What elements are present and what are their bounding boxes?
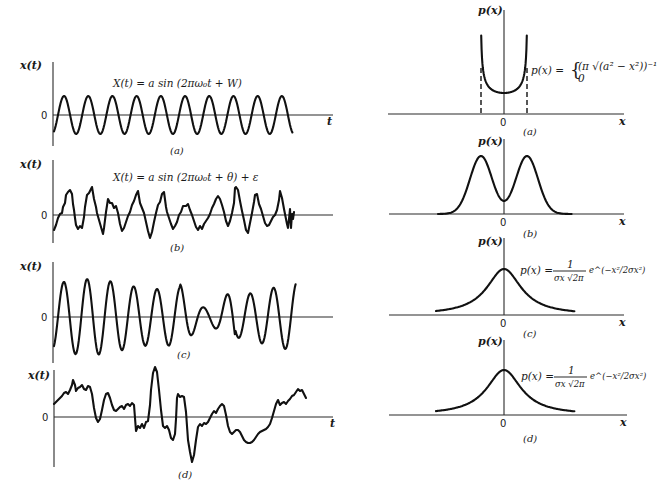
zero-label: 0	[500, 418, 506, 429]
zero-label: 0	[500, 217, 506, 228]
panel-caption: (b)	[523, 228, 537, 239]
equation-line-1: (π √(a² − x²))⁻¹	[578, 60, 657, 72]
equation-denominator: σx √2π	[555, 379, 585, 389]
panel-caption: (c)	[177, 349, 191, 360]
x-axis-label: x	[618, 316, 626, 329]
wide-band-random-curve	[54, 367, 306, 462]
y-axis-label: x(t)	[27, 369, 50, 382]
equation-lhs: p(x) =	[531, 64, 564, 76]
panel-caption: (a)	[523, 126, 537, 137]
equation: X(t) = a sin (2πω₀t + θ) + ε	[112, 171, 259, 183]
y-axis-label: x(t)	[19, 158, 42, 171]
equation-lhs: p(x) =	[521, 370, 554, 382]
zero-label: 0	[41, 312, 47, 323]
time-history-panel-b: x(t) 0 X(t) = a sin (2πω₀t + θ) + ε (b)	[19, 158, 333, 253]
equation-exponential: e^(−x²/2σx²)	[589, 265, 645, 275]
panel-caption: (b)	[170, 242, 184, 253]
equation-line-2: 0	[578, 72, 585, 84]
y-axis-label: x(t)	[19, 59, 42, 72]
zero-label: 0	[500, 318, 506, 329]
x-axis-label: t	[327, 115, 332, 128]
zero-label: 0	[41, 110, 47, 121]
y-axis-label: p(x)	[478, 235, 503, 248]
x-axis-label: x	[618, 115, 626, 128]
panel-caption: (a)	[170, 145, 184, 156]
equation-exponential: e^(−x²/2σx²)	[590, 371, 646, 381]
x-axis-label: t	[330, 417, 335, 430]
time-history-panel-c: x(t) 0 (c)	[19, 260, 333, 363]
density-panel-d: p(x) 0 x p(x) = 1 σx √2π e^(−x²/2σx²) (d…	[389, 335, 646, 444]
equation-lhs: p(x) =	[520, 264, 553, 276]
zero-label: 0	[41, 210, 47, 221]
panel-caption: (d)	[523, 433, 537, 444]
equation: X(t) = a sin (2πω₀t + W)	[112, 77, 242, 89]
y-axis-label: p(x)	[478, 4, 503, 17]
x-axis-label: x	[618, 215, 626, 228]
time-history-panel-d: x(t) 0 t (d)	[27, 367, 335, 480]
zero-label: 0	[42, 412, 48, 423]
panel-caption: (d)	[178, 469, 192, 480]
figure-canvas: x(t) 0 t X(t) = a sin (2πω₀t + W) (a) x(…	[0, 0, 658, 503]
equation-denominator: σx √2π	[554, 273, 584, 283]
density-panel-a: p(x) 0 x p(x) = { (π √(a² − x²))⁻¹ 0 (a)	[388, 4, 657, 137]
x-axis-label: x	[619, 416, 627, 429]
equation-numerator: 1	[568, 364, 575, 376]
panel-caption: (c)	[523, 328, 537, 339]
zero-label: 0	[500, 117, 506, 128]
density-panel-c: p(x) 0 x p(x) = 1 σx √2π e^(−x²/2σx²) (c…	[389, 235, 645, 339]
y-axis-label: x(t)	[19, 260, 42, 273]
y-axis-label: p(x)	[478, 135, 503, 148]
density-panel-b: p(x) 0 x (b)	[389, 135, 626, 239]
time-history-panel-a: x(t) 0 t X(t) = a sin (2πω₀t + W) (a)	[19, 59, 333, 156]
bimodal-density-curve	[438, 156, 572, 214]
y-axis-label: p(x)	[478, 335, 503, 348]
noisy-sine-curve	[54, 187, 294, 238]
equation-numerator: 1	[567, 258, 574, 270]
